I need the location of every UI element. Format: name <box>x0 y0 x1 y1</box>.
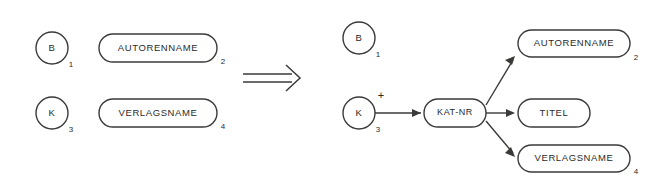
node-index: 1 <box>376 50 381 59</box>
edge-k-to-katnr <box>375 109 421 117</box>
node-index: 4 <box>221 122 226 131</box>
node-b-circle-2: B 1 <box>343 22 381 59</box>
arrowhead-icon <box>506 109 515 117</box>
node-k-circle: K 3 <box>36 97 74 134</box>
node-label: B <box>49 42 56 53</box>
edge-katnr-to-autorenname <box>486 56 515 105</box>
left-side-group: B 1 AUTORENNAME 2 K 3 VERLAGSNAME 4 <box>36 32 226 134</box>
node-index: 4 <box>634 167 639 176</box>
node-index: 1 <box>69 60 74 69</box>
arrowhead-icon <box>412 109 421 117</box>
node-label: B <box>356 32 363 43</box>
right-side-group: B 1 K + 3 KAT-NR AUTORENNAME 2 <box>343 22 639 176</box>
node-k-circle-2: K + 3 <box>343 89 384 134</box>
node-label: K <box>49 107 56 118</box>
node-label: TITEL <box>540 107 569 118</box>
node-label: VERLAGSNAME <box>119 107 198 118</box>
node-verlagsname-2: VERLAGSNAME 4 <box>518 145 639 176</box>
node-index: 2 <box>634 53 639 62</box>
edge-katnr-to-titel <box>486 109 515 117</box>
node-autorenname: AUTORENNAME 2 <box>99 34 226 66</box>
arrowhead-icon <box>505 147 515 157</box>
node-b-circle: B 1 <box>36 32 74 69</box>
transform-arrow-icon <box>243 65 300 91</box>
plus-annotation: + <box>378 89 384 101</box>
node-label: VERLAGSNAME <box>535 152 614 163</box>
node-index: 3 <box>376 125 381 134</box>
node-label: K <box>356 107 363 118</box>
edge-katnr-to-verlagsname <box>486 121 515 157</box>
node-kat-nr: KAT-NR <box>424 99 486 127</box>
node-autorenname-2: AUTORENNAME 2 <box>518 30 639 62</box>
node-verlagsname: VERLAGSNAME 4 <box>99 99 226 131</box>
node-index: 3 <box>69 125 74 134</box>
node-label: AUTORENNAME <box>118 42 198 53</box>
node-label: AUTORENNAME <box>534 37 614 48</box>
node-index: 2 <box>221 57 226 66</box>
node-label: KAT-NR <box>437 107 473 117</box>
node-titel: TITEL <box>518 99 590 127</box>
diagram-canvas: B 1 AUTORENNAME 2 K 3 VERLAGSNAME 4 <box>0 0 653 190</box>
